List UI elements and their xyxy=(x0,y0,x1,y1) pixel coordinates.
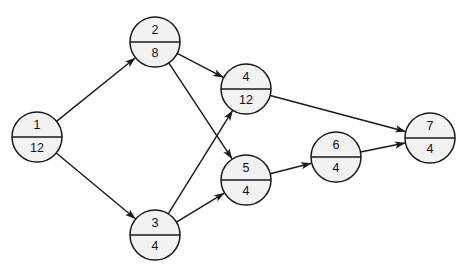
node-7-value: 4 xyxy=(427,142,434,156)
edge-4-to-7 xyxy=(270,95,405,131)
node-7[interactable]: 74 xyxy=(405,113,455,163)
edge-3-to-4 xyxy=(168,111,232,214)
node-5[interactable]: 54 xyxy=(221,155,271,205)
edge-1-to-3 xyxy=(56,153,135,219)
edge-5-to-6 xyxy=(270,163,311,174)
edge-6-to-7 xyxy=(361,143,406,152)
edge-1-to-2 xyxy=(56,58,135,121)
node-4-value: 12 xyxy=(239,93,253,107)
node-layer: 1122834412546474 xyxy=(12,17,455,260)
node-1[interactable]: 112 xyxy=(12,112,62,162)
node-7-label: 7 xyxy=(427,119,434,133)
node-1-label: 1 xyxy=(34,118,41,132)
node-6[interactable]: 64 xyxy=(311,132,361,182)
node-4-label: 4 xyxy=(243,70,250,84)
node-5-label: 5 xyxy=(243,161,250,175)
node-5-value: 4 xyxy=(243,184,250,198)
node-3-value: 4 xyxy=(152,239,159,253)
node-3-label: 3 xyxy=(152,216,159,230)
edge-3-to-5 xyxy=(176,193,224,222)
node-3[interactable]: 34 xyxy=(130,210,180,260)
node-2-value: 8 xyxy=(152,46,159,60)
edge-2-to-4 xyxy=(177,53,223,77)
node-2-label: 2 xyxy=(152,23,159,37)
node-6-label: 6 xyxy=(333,138,340,152)
network-diagram-canvas: 1122834412546474 xyxy=(0,0,468,271)
node-4[interactable]: 412 xyxy=(221,64,271,114)
node-2[interactable]: 28 xyxy=(130,17,180,67)
network-diagram: 1122834412546474 xyxy=(0,0,468,271)
node-1-value: 12 xyxy=(30,141,44,155)
node-6-value: 4 xyxy=(333,161,340,175)
